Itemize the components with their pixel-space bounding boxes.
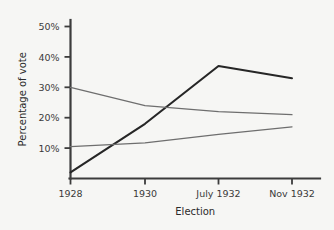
y-tick-label: 30% — [38, 82, 59, 93]
x-axis-title: Election — [175, 206, 215, 217]
y-tick-label: 10% — [38, 143, 59, 154]
x-tick-label: Nov 1932 — [269, 188, 315, 199]
y-tick-label: 50% — [38, 21, 59, 32]
x-tick-label: 1930 — [133, 188, 157, 199]
y-tick-label: 40% — [38, 52, 59, 63]
x-tick-label: July 1932 — [195, 188, 240, 199]
y-axis-title: Percentage of vote — [17, 52, 28, 146]
y-tick-label: 20% — [38, 112, 59, 123]
chart-container: 10%20%30%40%50% 19281930July 1932Nov 193… — [0, 0, 334, 230]
line-chart: 10%20%30%40%50% 19281930July 1932Nov 193… — [0, 0, 334, 230]
x-tick-label: 1928 — [58, 188, 82, 199]
